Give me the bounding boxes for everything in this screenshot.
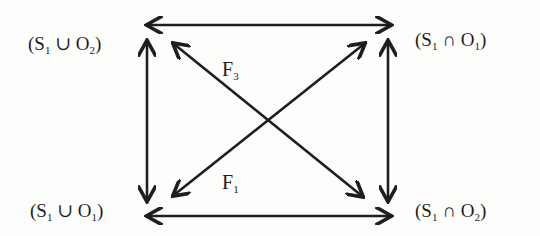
label-text: F [222, 58, 233, 80]
node-text: (S [30, 200, 47, 221]
label-f3: F3 [222, 59, 239, 82]
node-s1-intersect-o2: (S1 ∩ O2) [415, 201, 486, 223]
node-operator: ∪ [52, 200, 77, 221]
node-text: (S [28, 33, 45, 54]
node-text: O [461, 200, 475, 221]
label-f1: F1 [222, 172, 239, 195]
label-text: F [222, 171, 233, 193]
node-operator: ∩ [437, 200, 460, 221]
node-operator: ∪ [50, 33, 75, 54]
node-s1-intersect-o1: (S1 ∩ O1) [415, 30, 486, 52]
label-sub: 1 [233, 183, 239, 195]
node-text: O [78, 200, 92, 221]
node-text: (S [415, 200, 432, 221]
node-s1-union-o2: (S1 ∪ O2) [28, 34, 101, 56]
node-text: O [76, 33, 90, 54]
node-text: ) [480, 29, 486, 50]
node-s1-union-o1: (S1 ∪ O1) [30, 201, 103, 223]
node-text: O [461, 29, 475, 50]
node-text: ) [97, 200, 103, 221]
node-text: (S [415, 29, 432, 50]
node-text: ) [480, 200, 486, 221]
node-operator: ∩ [437, 29, 460, 50]
label-sub: 3 [233, 70, 239, 82]
node-text: ) [95, 33, 101, 54]
